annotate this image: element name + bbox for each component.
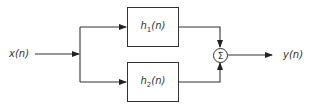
parallel-system-diagram: x(n) h1(n) h2(n) Σ y(n): [0, 0, 311, 108]
sigma-icon: Σ: [218, 51, 224, 61]
block-h2: h2(n): [127, 62, 179, 102]
input-label: x(n): [9, 49, 29, 59]
block-h1: h1(n): [127, 7, 179, 47]
block-h2-label: h2(n): [141, 75, 166, 89]
h2-output-arrow: [178, 63, 220, 82]
summer-node: Σ: [213, 48, 228, 63]
h1-output-arrow: [178, 27, 220, 47]
block-h1-label: h1(n): [141, 20, 166, 34]
output-label: y(n): [283, 50, 303, 60]
